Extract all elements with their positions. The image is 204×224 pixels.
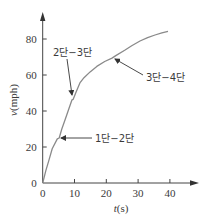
y-tick-label: 20	[26, 141, 38, 153]
velocity-time-chart: 010203040 020406080 t(s) v(mph) 1단−2단 2단…	[0, 0, 204, 224]
x-tick-label: 20	[101, 187, 113, 199]
x-tick-label: 40	[164, 187, 176, 199]
y-tick-label: 40	[26, 105, 38, 117]
x-tick-label: 0	[40, 187, 46, 199]
annotation-label-shift-2-3: 2단−3단	[53, 47, 92, 58]
annotation-shift-1-2: 1단−2단	[61, 133, 134, 144]
x-tick-label: 30	[133, 187, 145, 199]
x-axis-label: t(s)	[114, 202, 129, 215]
annotation-label-shift-3-4: 3단−4단	[146, 72, 185, 83]
y-axis-arrow-icon	[40, 12, 45, 21]
y-tick-label: 80	[26, 33, 38, 45]
axes: 010203040 020406080	[26, 12, 199, 199]
annotation-label-shift-1-2: 1단−2단	[95, 133, 134, 144]
y-tick-label: 60	[26, 69, 38, 81]
x-axis-arrow-icon	[190, 180, 199, 185]
y-ticks: 020406080	[26, 33, 47, 189]
y-axis-label: v(mph)	[7, 84, 20, 116]
x-tick-label: 10	[69, 187, 81, 199]
annotation-shift-2-3: 2단−3단	[53, 47, 92, 95]
annotation-shift-3-4: 3단−4단	[115, 59, 185, 83]
y-tick-label: 0	[31, 177, 37, 189]
x-ticks: 010203040	[40, 179, 176, 199]
